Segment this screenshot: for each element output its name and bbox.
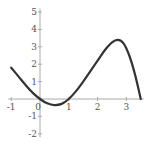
tick-labels: -10123-2-112345 (7, 7, 130, 139)
y-tick-label: 4 (31, 24, 37, 34)
x-tick-label: 1 (66, 102, 72, 112)
y-tick-label: 1 (31, 77, 37, 87)
x-tick-label: 3 (124, 102, 130, 112)
x-tick-label: 2 (95, 102, 101, 112)
chart: -10123-2-112345 (0, 0, 154, 149)
y-tick-label: 3 (31, 42, 37, 52)
y-tick-label: -1 (28, 111, 37, 121)
x-tick-label: -1 (7, 102, 16, 112)
y-tick-label: -2 (28, 129, 37, 139)
y-tick-label: 5 (31, 7, 37, 17)
y-tick-label: 2 (31, 59, 37, 69)
